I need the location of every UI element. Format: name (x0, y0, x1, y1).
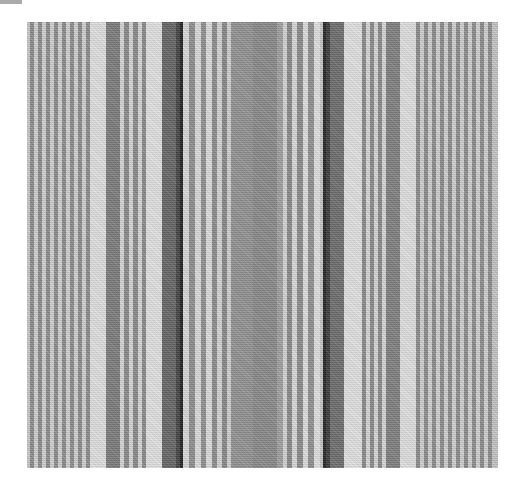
fabric-stripe (146, 22, 162, 468)
fabric-stripe (253, 22, 277, 468)
fabric-stripe (492, 22, 498, 468)
fabric-stripe (330, 22, 344, 468)
fabric-stripe (400, 22, 416, 468)
fabric-stripe (162, 22, 176, 468)
fabric-stripe (106, 22, 120, 468)
striped-fabric-image (27, 22, 498, 468)
fabric-stripe (90, 22, 106, 468)
fabric-stripe (386, 22, 400, 468)
clipped-label-fragment (0, 0, 22, 4)
fabric-stripe (231, 22, 253, 468)
fabric-stripe (344, 22, 362, 468)
